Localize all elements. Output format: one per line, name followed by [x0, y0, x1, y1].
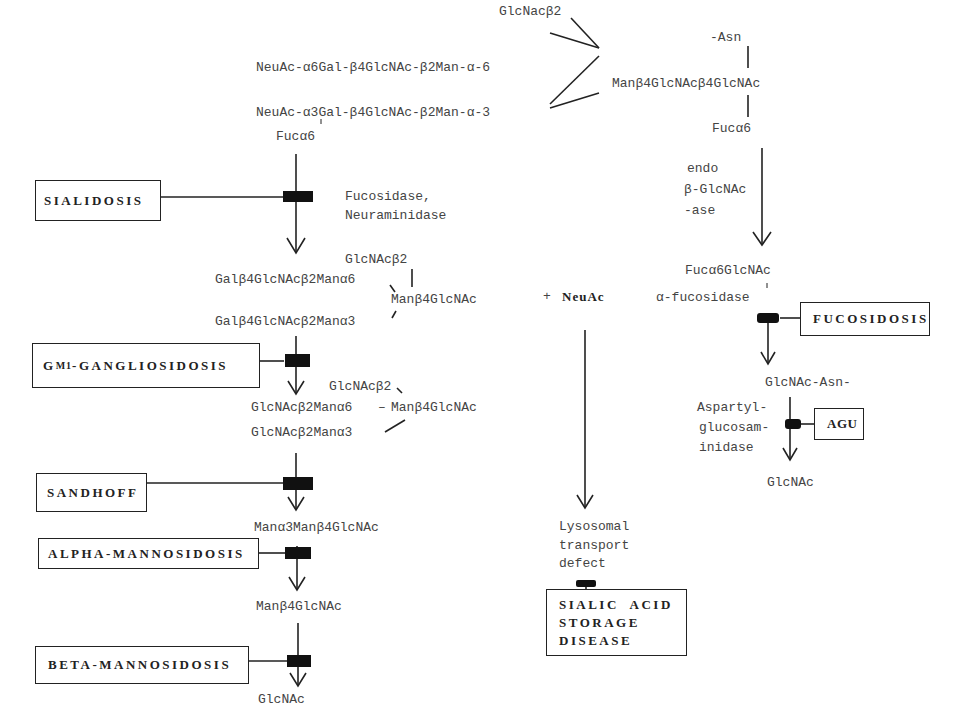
disease-label: SIALIDOSIS	[44, 193, 143, 209]
disease-fucosidosis: FUCOSIDOSIS	[800, 302, 930, 336]
lyso-label-3: defect	[559, 556, 606, 571]
neuraminidase-label: Neuraminidase	[345, 208, 446, 223]
s2-dash: –	[378, 400, 386, 415]
disease-label: ALPHA-MANNOSIDOSIS	[48, 546, 245, 562]
s5-glcnac: GlcNAc	[258, 692, 305, 707]
s3-structure: Manα3Manβ4GlcNAc	[254, 520, 379, 535]
asn-label: -Asn	[710, 30, 741, 45]
sialic-line-3: DISEASE	[559, 632, 632, 650]
branch-3-top: NeuAc-α3Gal-β4GlcNAc-β2Man-α-3	[256, 105, 490, 120]
branch-6-top: NeuAc-α6Gal-β4GlcNAc-β2Man-α-6	[256, 60, 490, 75]
sialic-line-2: STORAGE	[559, 614, 640, 632]
disease-sialic-acid-storage: SIALIC ACID STORAGE DISEASE	[546, 589, 687, 656]
lyso-label-1: Lysosomal	[559, 519, 629, 534]
s1-core: Manβ4GlcNAc	[391, 292, 477, 307]
fuc-a6-right: Fucα6	[712, 121, 751, 136]
aga-label-3: inidase	[699, 440, 754, 455]
gm1-subscript: M1	[56, 360, 72, 371]
disease-label: FUCOSIDOSIS	[813, 311, 929, 327]
s2-glcnac-b2: GlcNAcβ2	[329, 379, 391, 394]
r2-glcnac-asn: GlcNAc-Asn-	[765, 375, 851, 390]
aga-label-2: glucosam-	[699, 420, 769, 435]
core-structure: Manβ4GlcNAcβ4GlcNAc	[612, 76, 760, 91]
block	[283, 191, 313, 202]
disease-gm1-gangliosidosis: GM1-GANGLIOSIDOSIS	[32, 343, 260, 388]
s1-branch-6: Galβ4GlcNAcβ2Manα6	[215, 272, 355, 287]
glcnac-b2-top: GlcNacβ2	[499, 4, 561, 19]
lyso-label-2: transport	[559, 538, 629, 553]
endo-label-3: -ase	[684, 203, 715, 218]
alpha-fucosidase-label: α-fucosidase	[656, 290, 750, 305]
r1-fuc-glcnac: Fucα6GlcNAc	[685, 263, 771, 278]
fucosidase-label: Fucosidase,	[345, 189, 431, 204]
aga-label-1: Aspartyl-	[697, 400, 767, 415]
disease-sandhoff: SANDHOFF	[36, 473, 147, 512]
disease-agu: AGU	[814, 408, 864, 440]
gm1-rest: -GANGLIOSIDOSIS	[72, 358, 228, 374]
fuc-a6-left: Fucα6	[276, 129, 315, 144]
disease-sialidosis: SIALIDOSIS	[35, 180, 161, 221]
disease-label: SANDHOFF	[47, 485, 139, 501]
s2-core: Manβ4GlcNAc	[391, 400, 477, 415]
r3-glcnac: GlcNAc	[767, 475, 814, 490]
disease-beta-mannosidosis: BETA-MANNOSIDOSIS	[35, 646, 249, 684]
disease-label: AGU	[827, 416, 857, 432]
endo-label-1: endo	[687, 161, 718, 176]
s4-structure: Manβ4GlcNAc	[256, 599, 342, 614]
disease-label: BETA-MANNOSIDOSIS	[48, 657, 231, 673]
s1-branch-3: Galβ4GlcNAcβ2Manα3	[215, 314, 355, 329]
endo-label-2: β-GlcNAc	[684, 182, 746, 197]
s2-branch-6: GlcNAcβ2Manα6	[251, 400, 352, 415]
s2-branch-3: GlcNAcβ2Manα3	[251, 425, 352, 440]
plus-sign: +	[543, 289, 551, 304]
disease-alpha-mannosidosis: ALPHA-MANNOSIDOSIS	[38, 538, 259, 569]
free-neuac: NeuAc	[562, 289, 605, 304]
gm1-prefix: G	[43, 358, 56, 374]
s1-glcnac-b2: GlcNAcβ2	[345, 252, 407, 267]
sialic-line-1: SIALIC ACID	[559, 596, 673, 614]
